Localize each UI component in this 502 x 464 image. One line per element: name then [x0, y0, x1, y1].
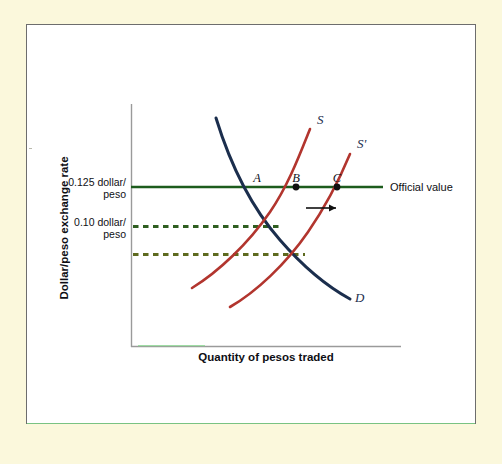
tick-label-010-line1: 0.10 dollar/ [74, 216, 126, 228]
x-axis-title: Quantity of pesos traded [198, 351, 333, 363]
curve-label-s: S [317, 112, 324, 127]
point-label-b: B [292, 171, 300, 185]
tick-label-010-line2: peso [103, 228, 126, 240]
tick-label-125-line2: peso [103, 188, 126, 200]
point-label-a: A [252, 171, 261, 185]
y-axis-title: Dollar/peso exchange rate [58, 156, 70, 299]
curve-label-d: D [354, 290, 365, 305]
tick-label-125-line1: 0.125 dollar/ [68, 176, 126, 188]
point-label-c: C [333, 171, 342, 185]
exchange-rate-chart: A B C S S' D Official value 0.125 dollar… [0, 0, 502, 464]
curve-label-s-prime: S' [357, 136, 367, 151]
official-value-label: Official value [390, 181, 453, 193]
supply-curve-s [192, 129, 310, 288]
